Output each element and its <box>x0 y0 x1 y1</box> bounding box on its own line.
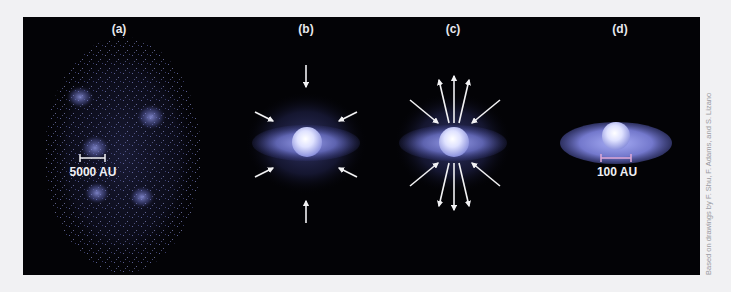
figure-frame: (a) (b) (c) (d) 5000 AU 100 AU <box>23 17 700 275</box>
panel-d-illustration <box>560 122 672 164</box>
panel-c-illustration <box>393 76 513 210</box>
panel-a-illustration <box>43 35 203 275</box>
figure-illustration <box>23 17 700 275</box>
figure-credit: Based on drawings by F. Shu, F. Adams, a… <box>704 93 713 275</box>
panel-a-label: (a) <box>112 22 127 36</box>
scale-label-d: 100 AU <box>597 165 637 179</box>
panel-c-label: (c) <box>446 22 461 36</box>
panel-d-label: (d) <box>612 22 627 36</box>
panel-b-label: (b) <box>298 22 313 36</box>
scale-label-a: 5000 AU <box>70 165 117 179</box>
panel-b-illustration <box>244 65 368 223</box>
